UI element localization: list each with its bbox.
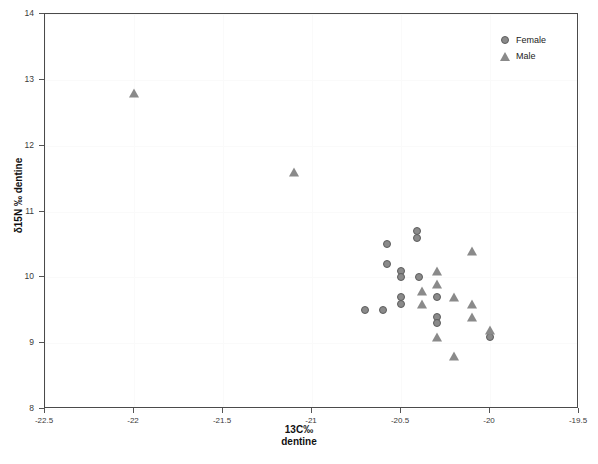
data-point-female [379,306,387,314]
x-axis-tick [400,408,401,413]
data-point-female [433,319,441,327]
data-point-female [413,234,421,242]
x-axis-tick [44,408,45,413]
x-axis-title: 13C‰ dentine [0,424,598,448]
y-axis-tick [39,342,44,343]
gridline-horizontal [45,146,577,147]
data-point-female [397,300,405,308]
data-point-female [433,293,441,301]
data-point-male [289,168,299,177]
y-axis-tick [39,276,44,277]
legend-item-label: Male [513,51,536,61]
data-point-male [417,286,427,295]
legend-item-male[interactable]: Male [497,48,546,64]
x-axis-tick [311,408,312,413]
data-point-female [361,306,369,314]
y-axis-tick-label: 13 [8,74,34,84]
gridline-vertical [223,14,224,407]
y-axis-tick-label: 14 [8,8,34,18]
scatter-plot-figure: -22.5-22-21.5-21-20.5-20-19.589101112131… [0,0,598,464]
data-point-female [415,273,423,281]
x-axis-tick [133,408,134,413]
data-point-male [417,299,427,308]
data-point-male [449,352,459,361]
x-axis-tick [222,408,223,413]
data-point-male [467,312,477,321]
gridline-vertical [312,14,313,407]
data-point-male [485,326,495,335]
data-point-male [432,266,442,275]
y-axis-tick [39,145,44,146]
gridline-horizontal [45,80,577,81]
circle-icon [497,36,513,44]
data-point-male [449,293,459,302]
gridline-horizontal [45,14,577,15]
gridline-horizontal [45,212,577,213]
x-axis-title-line2: dentine [0,436,598,448]
data-point-female [383,260,391,268]
legend-item-female[interactable]: Female [497,32,546,48]
x-axis-tick [578,408,579,413]
data-point-male [432,279,442,288]
data-point-female [397,273,405,281]
gridline-horizontal [45,343,577,344]
y-axis-tick [39,79,44,80]
y-axis-tick-label: 9 [8,337,34,347]
x-axis-tick [489,408,490,413]
y-axis-title: δ15N ‰ dentine [13,106,24,286]
legend-item-label: Female [513,35,546,45]
data-point-male [432,332,442,341]
data-point-male [467,247,477,256]
x-axis-title-line1: 13C‰ [0,424,598,436]
gridline-vertical [134,14,135,407]
gridline-vertical [401,14,402,407]
y-axis-tick [39,408,44,409]
data-point-male [467,299,477,308]
data-point-male [129,89,139,98]
y-axis-tick [39,13,44,14]
y-axis-tick [39,211,44,212]
legend: FemaleMale [497,32,546,64]
data-point-female [383,240,391,248]
gridline-horizontal [45,277,577,278]
gridline-vertical [579,14,580,407]
triangle-icon [497,52,513,61]
gridline-vertical [490,14,491,407]
y-axis-tick-label: 8 [8,403,34,413]
gridline-vertical [45,14,46,407]
plot-area [44,13,578,408]
